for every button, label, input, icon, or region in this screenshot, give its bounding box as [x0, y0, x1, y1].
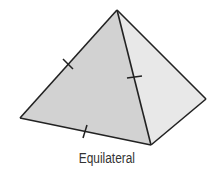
figure-caption: Equilateral	[16, 150, 197, 166]
pyramid-diagram	[0, 0, 213, 150]
